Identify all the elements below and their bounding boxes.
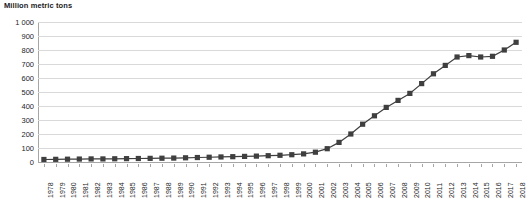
x-axis-tick-label: 2002 (330, 182, 337, 198)
x-axis-tick-mark (233, 164, 234, 167)
x-axis-tick-label: 1993 (224, 182, 231, 198)
x-axis-tick-label: 2005 (365, 182, 372, 198)
x-axis-tick-label: 1978 (47, 182, 54, 198)
x-axis-tick-label: 2012 (448, 182, 455, 198)
data-point-marker (242, 154, 247, 159)
x-axis-tick-mark (174, 164, 175, 167)
y-axis-tick-label: 500 (21, 88, 34, 97)
x-axis-tick-label: 1985 (129, 182, 136, 198)
data-point-marker (313, 150, 318, 155)
y-axis-tick-label: 600 (21, 74, 34, 83)
x-axis-tick-mark (44, 164, 45, 167)
x-axis-tick-mark (103, 164, 104, 167)
y-axis-tick-label: 900 (21, 32, 34, 41)
x-axis-tick-label: 2006 (377, 182, 384, 198)
x-axis-tick-mark (268, 164, 269, 167)
x-axis-tick-label: 1999 (295, 182, 302, 198)
data-point-marker (89, 156, 94, 161)
x-axis-tick-label: 2017 (507, 182, 514, 198)
x-axis-tick-mark (245, 164, 246, 167)
x-axis-tick-label: 2007 (389, 182, 396, 198)
x-axis-tick-mark (516, 164, 517, 167)
data-point-marker (466, 53, 471, 58)
data-point-marker (502, 47, 507, 52)
x-axis-labels: 1978197919801981198219831984198519861987… (38, 164, 522, 204)
x-axis-tick-mark (410, 164, 411, 167)
x-axis-tick-label: 1994 (236, 182, 243, 198)
data-point-marker (77, 156, 82, 161)
y-axis-tick-label: 100 (21, 144, 34, 153)
x-axis-tick-label: 1992 (212, 182, 219, 198)
x-axis-tick-mark (304, 164, 305, 167)
data-point-marker (183, 155, 188, 160)
x-axis-tick-label: 2011 (436, 183, 443, 198)
data-point-marker (207, 155, 212, 160)
data-point-marker (277, 153, 282, 158)
x-axis-tick-mark (386, 164, 387, 167)
x-axis-tick-label: 2004 (354, 182, 361, 198)
x-axis-tick-label: 1988 (165, 182, 172, 198)
series-polyline (44, 42, 516, 159)
data-point-marker (148, 156, 153, 161)
data-point-marker (53, 157, 58, 162)
x-axis-tick-label: 2015 (483, 182, 490, 198)
x-axis-tick-mark (504, 164, 505, 167)
x-axis-tick-label: 1982 (94, 182, 101, 198)
x-axis-tick-mark (398, 164, 399, 167)
x-axis-tick-mark (315, 164, 316, 167)
x-axis-tick-mark (433, 164, 434, 167)
data-point-marker (254, 154, 259, 159)
x-axis-tick-label: 1984 (118, 182, 125, 198)
data-point-marker (478, 54, 483, 59)
x-axis-tick-mark (256, 164, 257, 167)
data-point-marker (384, 105, 389, 110)
data-point-marker (348, 131, 353, 136)
x-axis-tick-label: 1980 (70, 182, 77, 198)
y-axis-tick-label: 400 (21, 102, 34, 111)
x-axis-tick-mark (221, 164, 222, 167)
y-axis-tick-label: 300 (21, 116, 34, 125)
y-axis-tick-label: 800 (21, 46, 34, 55)
chart-container: Million metric tons 1 000900800700600500… (0, 0, 526, 204)
gridline (38, 162, 522, 163)
y-axis-tick-label: 1 000 (15, 18, 34, 27)
x-axis-tick-label: 1996 (259, 182, 266, 198)
data-point-marker (41, 157, 46, 162)
x-axis-tick-mark (481, 164, 482, 167)
x-axis-tick-label: 2013 (460, 182, 467, 198)
x-axis-tick-mark (127, 164, 128, 167)
x-axis-tick-mark (209, 164, 210, 167)
data-point-marker (136, 156, 141, 161)
data-point-marker (195, 155, 200, 160)
data-point-marker (443, 63, 448, 68)
x-axis-tick-mark (138, 164, 139, 167)
x-axis-tick-mark (186, 164, 187, 167)
x-axis-tick-mark (197, 164, 198, 167)
data-point-marker (100, 156, 105, 161)
data-point-marker (514, 40, 519, 45)
data-point-marker (266, 153, 271, 158)
x-axis-tick-mark (91, 164, 92, 167)
data-point-marker (407, 91, 412, 96)
x-axis-tick-label: 2008 (401, 182, 408, 198)
data-point-marker (289, 152, 294, 157)
data-point-marker (336, 140, 341, 145)
series-markers (41, 40, 518, 162)
x-axis-tick-mark (150, 164, 151, 167)
data-point-marker (218, 154, 223, 159)
x-axis-tick-label: 2001 (318, 182, 325, 198)
data-point-marker (454, 54, 459, 59)
x-axis-tick-label: 2010 (424, 182, 431, 198)
x-axis-tick-label: 1995 (247, 182, 254, 198)
x-axis-tick-mark (162, 164, 163, 167)
data-point-marker (301, 151, 306, 156)
x-axis-tick-mark (492, 164, 493, 167)
x-axis-tick-mark (56, 164, 57, 167)
y-axis-tick-label: 0 (30, 158, 34, 167)
data-point-marker (124, 156, 129, 161)
x-axis-tick-label: 2018 (519, 182, 526, 198)
data-point-marker (360, 122, 365, 127)
x-axis-tick-label: 1983 (106, 182, 113, 198)
y-axis-tick-label: 200 (21, 130, 34, 139)
line-series (38, 22, 522, 162)
